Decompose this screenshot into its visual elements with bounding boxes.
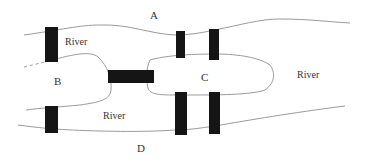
north-shore: [24, 19, 350, 35]
bridge-2: [176, 31, 185, 58]
bridge-1: [45, 27, 58, 62]
region-label-d: D: [137, 142, 145, 154]
bridge-4: [108, 70, 154, 83]
region-label-c: C: [201, 71, 208, 83]
island-c-shore: [147, 54, 274, 95]
river-label-south: River: [103, 110, 126, 121]
region-label-b: B: [54, 75, 61, 87]
west-shore-dashed: [24, 62, 45, 67]
bridge-7: [209, 92, 220, 134]
river-label-west: River: [65, 36, 88, 47]
bridge-3: [209, 29, 219, 60]
island-b-north-shore: [26, 54, 111, 110]
river-label-east: River: [297, 69, 320, 80]
bridge-5: [45, 106, 58, 133]
konigsberg-bridges-diagram: A B C D River River River: [0, 0, 366, 162]
bridge-6: [175, 92, 187, 135]
region-label-a: A: [150, 9, 158, 21]
